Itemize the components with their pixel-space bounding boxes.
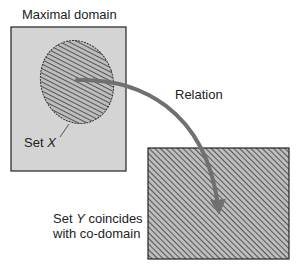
set-y-variable: Y <box>76 211 85 226</box>
set-y-suffix: coincides <box>85 211 143 226</box>
set-x-variable: X <box>47 135 56 150</box>
set-y-prefix: Set <box>53 211 76 226</box>
relation-label: Relation <box>175 87 223 103</box>
set-y-label-line1: Set Y coincides <box>53 211 143 227</box>
set-x-prefix: Set <box>24 135 47 150</box>
set-x-label: Set X <box>24 135 56 151</box>
maximal-domain-label: Maximal domain <box>22 7 117 23</box>
set-y-label-line2: with co-domain <box>53 226 140 242</box>
